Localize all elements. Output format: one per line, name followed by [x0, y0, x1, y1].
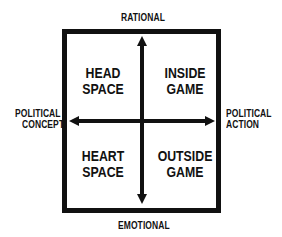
- axis-arrows: [0, 0, 282, 237]
- quadrant-outside-game-line1: OUTSIDE: [156, 148, 213, 164]
- quadrant-head-space: HEAD SPACE: [74, 65, 131, 97]
- quadrant-inside-game: INSIDE GAME: [156, 65, 213, 97]
- quadrant-head-space-line1: HEAD: [74, 65, 131, 81]
- quadrant-outside-game: OUTSIDE GAME: [156, 148, 213, 180]
- quadrant-heart-space-line1: HEART: [74, 148, 131, 164]
- quadrant-outside-game-line2: GAME: [156, 164, 213, 180]
- quadrant-heart-space: HEART SPACE: [74, 148, 131, 180]
- quadrant-head-space-line2: SPACE: [74, 81, 131, 97]
- quadrant-inside-game-line1: INSIDE: [156, 65, 213, 81]
- quadrant-inside-game-line2: GAME: [156, 81, 213, 97]
- quadrant-heart-space-line2: SPACE: [74, 164, 131, 180]
